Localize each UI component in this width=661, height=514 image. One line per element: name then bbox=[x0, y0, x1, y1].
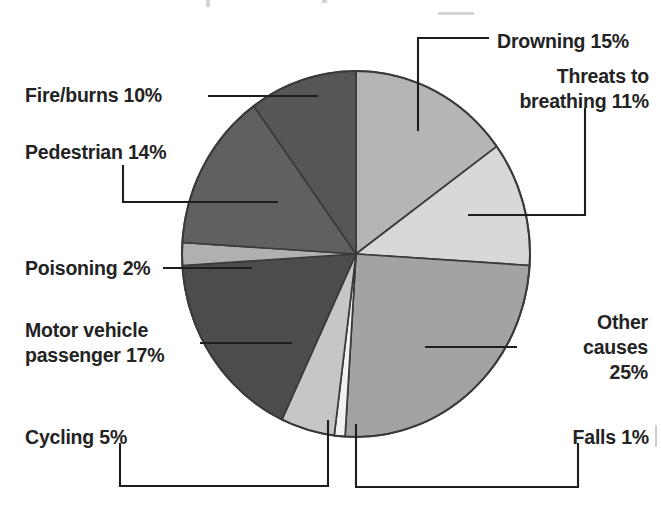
label-threats-to-breathing: Threats to breathing 11% bbox=[409, 64, 649, 114]
label-other-causes: Other causes 25% bbox=[448, 310, 648, 385]
label-pedestrian-line1: Pedestrian 14% bbox=[25, 140, 166, 165]
label-motor-line2: passenger 17% bbox=[25, 343, 164, 368]
label-fire-line1: Fire/burns 10% bbox=[25, 83, 162, 108]
label-motor-vehicle-passenger: Motor vehicle passenger 17% bbox=[25, 318, 164, 368]
label-threats-line1: Threats to bbox=[409, 64, 649, 89]
label-pedestrian: Pedestrian 14% bbox=[25, 140, 166, 165]
label-threats-line2: breathing 11% bbox=[409, 89, 649, 114]
leader-line-cycling bbox=[120, 420, 328, 486]
label-falls: Falls 1% bbox=[449, 425, 649, 450]
label-cycling: Cycling 5% bbox=[25, 425, 127, 450]
pie-chart: Drowning 15% Threats to breathing 11% Ot… bbox=[0, 0, 661, 514]
label-other-line1: Other bbox=[448, 310, 648, 335]
label-drowning: Drowning 15% bbox=[497, 29, 629, 54]
label-fire-burns: Fire/burns 10% bbox=[25, 83, 162, 108]
label-drowning-line1: Drowning 15% bbox=[497, 29, 629, 54]
label-falls-line1: Falls 1% bbox=[449, 425, 649, 450]
label-poisoning: Poisoning 2% bbox=[25, 256, 150, 281]
label-other-line2: causes bbox=[448, 335, 648, 360]
scan-edge-mark bbox=[655, 425, 657, 447]
label-poisoning-line1: Poisoning 2% bbox=[25, 256, 150, 281]
label-cycling-line1: Cycling 5% bbox=[25, 425, 127, 450]
label-motor-line1: Motor vehicle bbox=[25, 318, 164, 343]
label-other-line3: 25% bbox=[448, 360, 648, 385]
